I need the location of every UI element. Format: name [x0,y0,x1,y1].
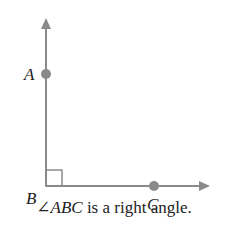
right-angle-marker [46,170,62,186]
label-a: A [24,66,34,83]
arrowhead-right-icon [199,181,210,191]
caption: ∠ABC is a right angle. [0,197,228,218]
angle-symbol: ∠ [36,198,50,217]
arrowhead-up-icon [41,18,51,29]
point-a [41,69,51,79]
caption-text: is a right angle. [83,198,192,217]
angle-name: ABC [51,198,83,217]
point-c [149,181,159,191]
